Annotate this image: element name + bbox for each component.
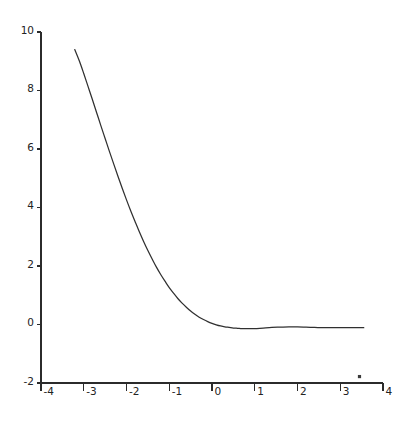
y-tick-label: 8 (27, 82, 34, 94)
y-tick-label: 0 (27, 316, 34, 328)
y-tick-label: 4 (27, 199, 34, 211)
y-tick-label: 10 (21, 24, 34, 36)
stray-marker-dot (358, 375, 361, 378)
y-tick-label: 2 (27, 258, 34, 270)
x-tick-label: 4 (386, 385, 393, 397)
x-tick-label: -4 (44, 385, 55, 397)
y-tick-label: 6 (27, 141, 34, 153)
x-tick-label: -3 (86, 385, 96, 397)
x-tick-label: 3 (343, 385, 350, 397)
x-tick-label: 0 (215, 385, 222, 397)
chart-background (0, 0, 406, 424)
chart-figure: -20246810 -4-3-2-101234 (0, 0, 406, 424)
y-tick-label: -2 (24, 375, 34, 387)
annotations (358, 375, 361, 378)
x-tick-label: -1 (172, 385, 182, 397)
x-tick-label: -2 (129, 385, 139, 397)
line-chart: -20246810 -4-3-2-101234 (0, 0, 406, 424)
x-tick-label: 2 (300, 385, 307, 397)
x-tick-label: 1 (257, 385, 264, 397)
